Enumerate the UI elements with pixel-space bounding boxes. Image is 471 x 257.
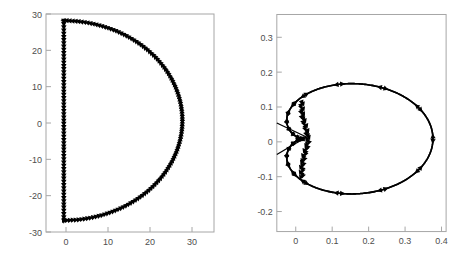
plot-panel-left: 30 20 10 0 -10 -20 -30 0 10 20 30	[0, 0, 235, 257]
x-tick-label: 0	[293, 237, 298, 247]
contour-curve-left	[64, 21, 183, 221]
y-tick-label: 30	[32, 10, 42, 20]
plot-panel-right: 0.3 0.2 0.1 0 -0.1 -0.2 0 0.1 0.2 0.3 0.…	[235, 0, 470, 257]
y-tick-label: -0.1	[257, 172, 272, 182]
y-tick-label: -30	[29, 228, 42, 238]
x-axis-right: 0 0.1 0.2 0.3 0.4	[293, 227, 448, 247]
y-tick-label: -0.2	[257, 207, 272, 217]
x-tick-label: 30	[187, 237, 197, 247]
y-tick-label: 10	[32, 82, 42, 92]
y-tick-label: 0.2	[260, 68, 272, 78]
x-tick-label: 0.3	[399, 237, 411, 247]
y-axis-right: 0.3 0.2 0.1 0 -0.1 -0.2	[257, 33, 281, 217]
y-tick-label: 0	[37, 119, 42, 129]
x-axis-left: 0 10 20 30	[63, 227, 197, 247]
x-tick-label: 0.1	[326, 237, 338, 247]
y-tick-label: 0	[268, 137, 273, 147]
y-tick-label: -10	[29, 155, 42, 165]
x-tick-label: 10	[103, 237, 113, 247]
figure-container: 30 20 10 0 -10 -20 -30 0 10 20 30	[0, 0, 471, 257]
y-axis-left: 30 20 10 0 -10 -20 -30	[29, 10, 51, 238]
x-tick-label: 0.4	[435, 237, 447, 247]
direction-markers-left	[60, 18, 185, 224]
y-tick-label: 0.3	[260, 33, 272, 43]
y-tick-label: -20	[29, 191, 42, 201]
y-tick-label: 20	[32, 46, 42, 56]
plot-svg-left: 30 20 10 0 -10 -20 -30 0 10 20 30	[0, 0, 235, 257]
x-tick-label: 0.2	[362, 237, 374, 247]
x-tick-label: 20	[145, 237, 155, 247]
direction-markers-right	[284, 82, 436, 196]
axis-frame-left	[46, 14, 214, 232]
x-tick-label: 0	[63, 237, 68, 247]
y-tick-label: 0.1	[260, 102, 272, 112]
plot-svg-right: 0.3 0.2 0.1 0 -0.1 -0.2 0 0.1 0.2 0.3 0.…	[235, 0, 470, 257]
